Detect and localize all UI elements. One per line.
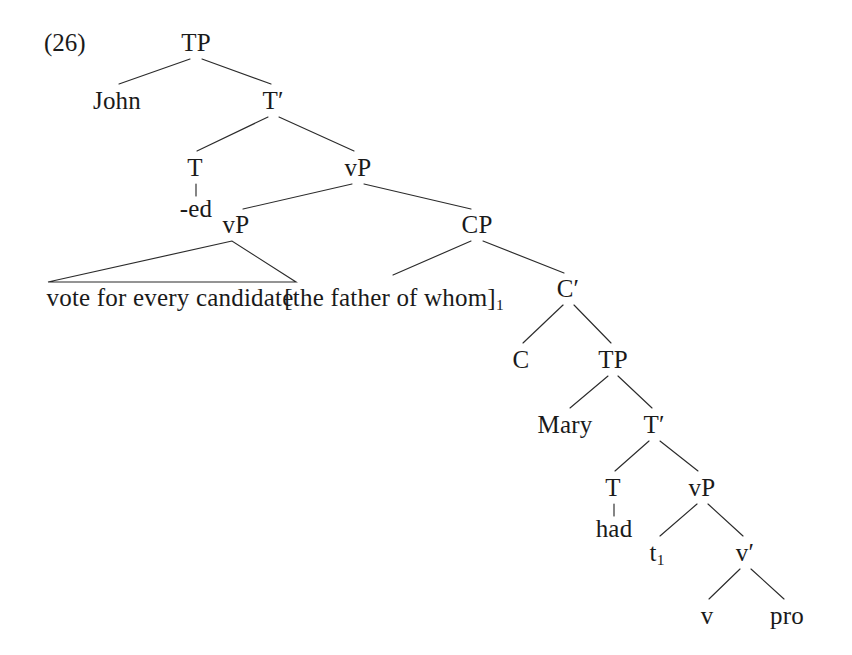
- tree-node-label-vp-outer: vP: [345, 154, 372, 181]
- tree-node-label-vp-embedded: vP: [689, 474, 716, 501]
- example-number: (26): [44, 30, 86, 55]
- tree-node-label-vote-phrase: vote for every candidate: [46, 284, 293, 311]
- tree-node-label-v-bar: v′: [736, 539, 754, 566]
- tree-node-cp: CP: [462, 212, 493, 237]
- tree-node-subscript-trace-1: 1: [657, 551, 665, 568]
- tree-edge-tp-inner-to-t-bar-2: [618, 376, 652, 408]
- tree-edge-tp-inner-to-mary: [570, 376, 608, 408]
- tree-node-label-little-v: v: [701, 602, 714, 629]
- abbreviation-triangle-vote-triangle: [48, 241, 296, 282]
- tree-node-label-t-bar-2: T′: [643, 411, 664, 438]
- tree-edge-vp-outer-to-cp: [364, 184, 471, 209]
- tree-node-label-mary: Mary: [538, 411, 593, 438]
- tree-node-ed: -ed: [180, 196, 213, 221]
- tree-node-label-t-2: T: [605, 474, 620, 501]
- tree-node-label-cp: CP: [462, 211, 493, 238]
- tree-node-john: John: [93, 88, 141, 113]
- tree-node-vp-embedded: vP: [689, 475, 716, 500]
- tree-edge-c-bar-to-tp-inner: [574, 305, 611, 343]
- tree-edge-c-bar-to-c: [523, 305, 563, 343]
- tree-edge-vp-embedded-to-trace-1: [660, 504, 697, 536]
- tree-node-little-v: v: [701, 603, 714, 628]
- tree-edge-t-bar-2-to-vp-embedded: [660, 441, 698, 471]
- tree-node-label-ed: -ed: [180, 195, 213, 222]
- tree-node-label-t-bar-1: T′: [262, 87, 283, 114]
- tree-node-label-had: had: [596, 515, 633, 542]
- tree-node-subscript-father-of-whom: 1: [496, 296, 504, 313]
- tree-node-vp-inner: vP: [223, 212, 250, 237]
- tree-node-label-c: C: [513, 346, 530, 373]
- tree-node-label-vp-inner: vP: [223, 211, 250, 238]
- tree-node-had: had: [596, 516, 633, 541]
- tree-edge-cp-to-father-of-whom: [393, 241, 471, 275]
- tree-node-trace-1: t1: [650, 540, 665, 568]
- tree-node-pro: pro: [770, 603, 804, 628]
- tree-node-t-bar-1: T′: [262, 88, 283, 113]
- tree-node-father-of-whom: [the father of whom]1: [284, 285, 503, 313]
- tree-node-mary: Mary: [538, 412, 593, 437]
- tree-edge-v-bar-to-pro: [751, 569, 784, 599]
- tree-edge-vp-embedded-to-v-bar: [708, 504, 743, 536]
- tree-node-label-john: John: [93, 87, 141, 114]
- tree-node-label-t-1: T: [187, 154, 202, 181]
- tree-node-label-tp-root: TP: [181, 29, 211, 56]
- tree-edge-vp-outer-to-vp-inner: [243, 184, 352, 209]
- tree-edge-t-bar-2-to-t-2: [615, 441, 649, 471]
- tree-node-t-1: T: [187, 155, 202, 180]
- tree-edge-t-bar-1-to-vp-outer: [279, 117, 354, 151]
- edges-group: [119, 59, 784, 599]
- tree-node-t-bar-2: T′: [643, 412, 664, 437]
- tree-node-label-pro: pro: [770, 602, 804, 629]
- syntax-tree-figure: (26) TPJohnT′T-edvPvPvote for every cand…: [0, 0, 852, 655]
- tree-node-vote-phrase: vote for every candidate: [46, 285, 293, 310]
- tree-edge-tp-root-to-john: [119, 59, 190, 84]
- tree-node-v-bar: v′: [736, 540, 754, 565]
- tree-edge-v-bar-to-little-v: [709, 569, 740, 599]
- tree-node-label-father-of-whom: [the father of whom]: [284, 284, 496, 311]
- tree-edge-t-bar-1-to-t-1: [197, 117, 268, 151]
- triangles-group: [48, 241, 296, 282]
- tree-node-vp-outer: vP: [345, 155, 372, 180]
- tree-node-label-c-bar: C′: [557, 275, 580, 302]
- tree-node-tp-inner: TP: [598, 347, 628, 372]
- tree-node-c: C: [513, 347, 530, 372]
- tree-node-t-2: T: [605, 475, 620, 500]
- tree-edge-tp-root-to-t-bar-1: [202, 59, 271, 84]
- tree-node-label-tp-inner: TP: [598, 346, 628, 373]
- tree-node-c-bar: C′: [557, 276, 580, 301]
- tree-node-tp-root: TP: [181, 30, 211, 55]
- tree-edge-cp-to-c-bar: [483, 241, 564, 273]
